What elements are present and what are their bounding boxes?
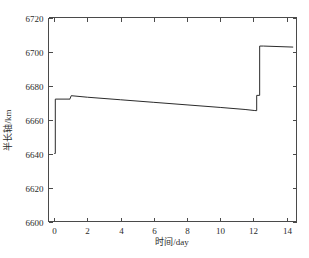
x-tick-label: 2 xyxy=(85,226,90,236)
y-tick-label: 6640 xyxy=(26,150,45,160)
x-tick-label: 6 xyxy=(152,226,157,236)
y-tick-label: 6680 xyxy=(26,82,45,92)
semi-major-axis-line-chart: 6600662066406660668067006720 02468101214… xyxy=(0,0,309,258)
x-tick-label: 8 xyxy=(185,226,190,236)
y-tick-label: 6620 xyxy=(26,184,45,194)
x-tick-label: 10 xyxy=(216,226,226,236)
x-tick-label: 12 xyxy=(249,226,258,236)
y-tick-label: 6600 xyxy=(26,218,45,228)
y-tick-label: 6660 xyxy=(26,116,45,126)
y-tick-label: 6700 xyxy=(26,48,45,58)
y-axis-label: 半长轴/km xyxy=(2,109,13,150)
x-tick-label: 4 xyxy=(119,226,124,236)
chart-figure: 6600662066406660668067006720 02468101214… xyxy=(0,0,309,258)
x-tick-label: 14 xyxy=(283,226,293,236)
x-axis-label: 时间/day xyxy=(155,236,189,247)
x-tick-label: 0 xyxy=(52,226,57,236)
y-tick-label: 6720 xyxy=(26,14,45,24)
